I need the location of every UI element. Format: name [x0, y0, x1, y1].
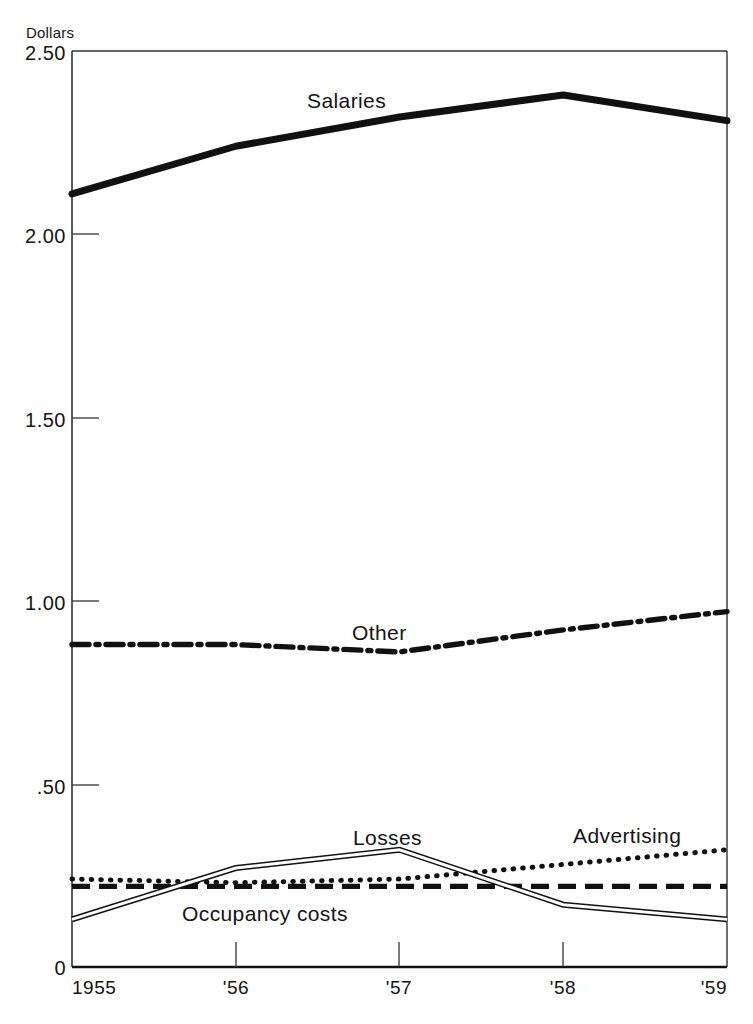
- y-tick-label-200: 2.00: [25, 225, 66, 247]
- series-label-occupancy: Occupancy costs: [182, 902, 348, 925]
- chart-page: Dollars 2.50 2.00 1.50 1.00 .50 0 1955 '…: [0, 0, 753, 1024]
- series-label-other: Other: [352, 621, 407, 644]
- x-tick-label-1957: '57: [386, 977, 412, 998]
- x-tick-label-1959: '59: [701, 977, 727, 998]
- y-tick-label-000: 0: [54, 957, 66, 979]
- x-tick-labels: 1955 '56 '57 '58 '59: [72, 977, 727, 998]
- y-tick-label-100: 1.00: [25, 592, 66, 614]
- y-tick-label-150: 1.50: [25, 409, 66, 431]
- y-tick-label-050: .50: [37, 776, 66, 798]
- series-lines: [72, 95, 727, 919]
- x-tick-label-1956: '56: [223, 977, 249, 998]
- x-axis-ticks: [236, 942, 563, 967]
- y-axis-unit-label: Dollars: [26, 24, 74, 41]
- x-tick-label-1958: '58: [550, 977, 576, 998]
- series-labels: Salaries Other Losses Advertising Occupa…: [182, 89, 681, 925]
- series-label-salaries: Salaries: [307, 89, 386, 112]
- series-line-salaries: [72, 95, 727, 194]
- line-chart: Dollars 2.50 2.00 1.50 1.00 .50 0 1955 '…: [0, 0, 753, 1024]
- series-label-advertising: Advertising: [573, 824, 681, 847]
- y-tick-label-250: 2.50: [25, 42, 66, 64]
- y-tick-labels: 2.50 2.00 1.50 1.00 .50 0: [25, 42, 66, 979]
- series-label-losses: Losses: [353, 826, 422, 849]
- x-tick-label-1955: 1955: [72, 977, 116, 998]
- series-line-advertising: [72, 850, 727, 883]
- y-axis-ticks: [72, 234, 99, 785]
